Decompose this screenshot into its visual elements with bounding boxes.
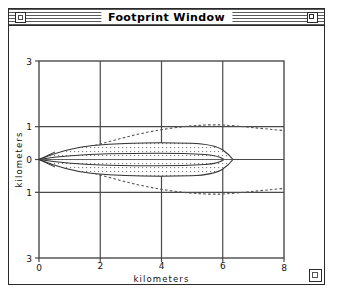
zoom-box-icon[interactable]: [307, 12, 318, 23]
footprint-window[interactable]: Footprint Window: [8, 8, 325, 285]
y-axis-label: kilometers: [14, 132, 24, 188]
xtick-label-4: 4: [159, 261, 165, 271]
close-box-icon[interactable]: [15, 12, 26, 23]
ytick-label-neg1: 1: [26, 188, 32, 198]
window-title-bar[interactable]: Footprint Window: [9, 9, 324, 26]
grow-box-icon[interactable]: [309, 269, 322, 282]
ytick-label-neg3: 3: [26, 254, 32, 264]
window-title: Footprint Window: [101, 11, 232, 24]
xtick-label-8: 8: [281, 263, 287, 273]
y-tick-labels: 3 1 0 1 3: [26, 57, 32, 264]
desktop-background: Footprint Window: [0, 0, 337, 295]
x-axis-label: kilometers: [134, 274, 190, 284]
xtick-label-6: 6: [220, 261, 226, 271]
xtick-label-2: 2: [97, 261, 103, 271]
xtick-label-0: 0: [36, 263, 42, 273]
x-tick-labels: 0 2 4 6 8: [36, 261, 287, 273]
footprint-plot: 3 1 0 1 3 0 2 4 6 8 kilometers kilometer…: [9, 26, 324, 284]
window-content: 3 1 0 1 3 0 2 4 6 8 kilometers kilometer…: [9, 26, 324, 284]
ytick-label-1: 1: [26, 122, 32, 132]
ytick-label-3: 3: [26, 57, 32, 67]
ytick-label-0: 0: [26, 155, 32, 165]
